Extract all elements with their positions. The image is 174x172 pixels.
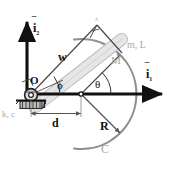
figure-canvas: ̅ i2 ̅ i1 O k, c I d w ϕ θ R C M m, L λ bbox=[0, 0, 174, 172]
label-dimension-d: d bbox=[52, 117, 59, 129]
construction-line-w bbox=[30, 25, 122, 95]
label-curve-C: C bbox=[101, 143, 109, 155]
label-i1-subscript: 1 bbox=[149, 76, 152, 82]
label-radius-R: R bbox=[100, 120, 109, 132]
schematic-svg bbox=[0, 0, 174, 172]
label-i2-symbol: i bbox=[33, 21, 36, 35]
pivot-joint-O bbox=[24, 89, 38, 102]
circle-center-marker bbox=[79, 92, 83, 96]
label-rod-properties-mL: m, L bbox=[127, 40, 146, 50]
label-angle-phi: ϕ bbox=[57, 80, 63, 91]
angle-theta-arc bbox=[102, 73, 111, 95]
label-i1-symbol: i bbox=[146, 67, 149, 81]
label-pivot-O: O bbox=[30, 75, 39, 86]
label-unit-vector-i2: ̅ i2 bbox=[33, 22, 39, 36]
label-angle-theta: θ bbox=[95, 79, 100, 90]
label-spring-damper-kc: k, c bbox=[2, 110, 15, 119]
label-unit-vector-i1: ̅ i1 bbox=[146, 68, 152, 82]
label-length-w: w bbox=[58, 51, 67, 63]
label-inertia-I: I bbox=[42, 99, 46, 110]
label-apex-lambda: λ bbox=[95, 16, 98, 23]
label-point-mass-M: M bbox=[111, 55, 121, 66]
label-i2-subscript: 2 bbox=[36, 30, 39, 36]
